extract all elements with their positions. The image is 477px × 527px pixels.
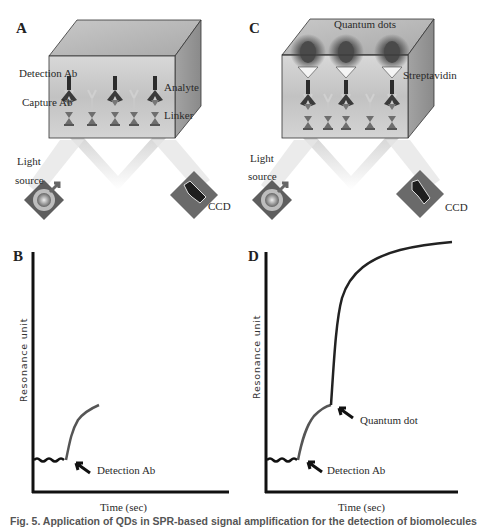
panel-letter-b: B <box>13 248 23 265</box>
panel-d-annotation-detection-ab: Detection Ab <box>327 464 385 476</box>
panel-b-x-axis-label: Time (sec) <box>100 501 147 513</box>
panel-b-annotation-detection-ab: Detection Ab <box>97 464 155 476</box>
label-ccd-c: CCD <box>445 201 468 213</box>
label-linker: Linker <box>164 109 193 121</box>
panel-letter-c: C <box>249 20 260 37</box>
panel-b-chart <box>32 252 229 493</box>
label-light-source-a-line1: Light <box>17 155 41 167</box>
panel-letter-a: A <box>16 20 27 37</box>
panel-c-sensor <box>252 19 444 220</box>
panel-d-chart <box>265 242 458 493</box>
label-detection-ab: Detection Ab <box>19 67 77 79</box>
label-light-source-c-line1: Light <box>250 152 274 164</box>
panel-d-annotation-quantum-dot: Quantum dot <box>360 414 418 426</box>
label-light-source-a-line2: source <box>15 174 44 186</box>
label-streptavidin: Streptavidin <box>403 69 457 81</box>
label-ccd-a: CCD <box>208 200 231 212</box>
label-light-source-c-line2: source <box>248 170 277 182</box>
panel-d-y-axis-label: Resonance unit <box>251 315 262 399</box>
panel-b-y-axis-label: Resonance unit <box>18 318 29 402</box>
label-analyte: Analyte <box>164 81 199 93</box>
label-quantum-dots: Quantum dots <box>334 18 396 30</box>
label-capture-ab: Capture Ab <box>22 96 72 108</box>
panel-d-x-axis-label: Time (sec) <box>338 501 385 513</box>
figure-caption: Fig. 5. Application of QDs in SPR-based … <box>10 515 477 527</box>
panel-letter-d: D <box>248 248 259 265</box>
